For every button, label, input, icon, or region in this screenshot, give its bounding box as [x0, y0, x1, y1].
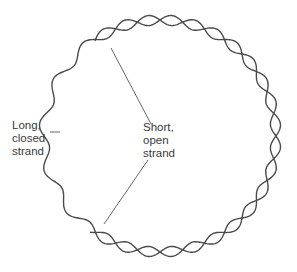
label-line: strand — [12, 145, 45, 158]
leader-line-short-strand-bottom — [104, 160, 148, 224]
label-line: closed — [12, 132, 45, 145]
label-line: open — [143, 134, 175, 147]
short-open-strand — [90, 16, 281, 257]
label-line: Long, — [12, 119, 45, 132]
leader-line-short-strand-top — [111, 48, 151, 124]
label-short-open-strand: Short, open strand — [143, 121, 175, 160]
label-line: strand — [143, 147, 175, 160]
label-long-closed-strand: Long, closed strand — [12, 119, 45, 158]
label-line: Short, — [143, 121, 175, 134]
